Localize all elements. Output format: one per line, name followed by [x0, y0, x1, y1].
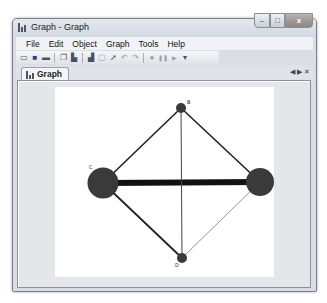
node-label-B: B: [187, 99, 191, 105]
play-icon[interactable]: ▶: [169, 53, 179, 63]
pause-icon[interactable]: ❚❚: [158, 53, 168, 63]
title-bar[interactable]: Graph - Graph – □ x: [13, 19, 316, 37]
pointer-icon[interactable]: ➚: [108, 53, 118, 63]
paste-icon[interactable]: ▙: [69, 53, 79, 63]
edge-C-D[interactable]: [103, 183, 182, 258]
tab-label: Graph: [37, 69, 62, 79]
tab-strip: Graph ◀ ▶ ✕: [16, 65, 313, 81]
maximize-button[interactable]: □: [270, 13, 285, 28]
record-icon[interactable]: ●: [147, 53, 157, 63]
tab-prev-icon[interactable]: ◀: [290, 68, 295, 76]
tab-close-icon[interactable]: ✕: [304, 68, 310, 76]
edge-C-B[interactable]: [103, 108, 181, 183]
tab-graph[interactable]: Graph: [21, 67, 69, 81]
edge-A-D[interactable]: [182, 182, 260, 258]
redo-icon[interactable]: ↷: [130, 53, 140, 63]
toolbar-separator: [143, 53, 144, 63]
menu-graph[interactable]: Graph: [102, 37, 135, 50]
edge-B-A[interactable]: [181, 108, 260, 182]
graph-canvas[interactable]: ABCD: [55, 87, 274, 277]
menu-object[interactable]: Object: [68, 37, 102, 50]
tab-next-icon[interactable]: ▶: [297, 68, 302, 76]
graph-view[interactable]: ABCD: [55, 87, 274, 277]
node-label-D: D: [175, 262, 179, 268]
node-label-C: C: [89, 164, 93, 170]
app-chart-icon: [18, 23, 28, 32]
window-title: Graph - Graph: [31, 22, 89, 32]
close-button[interactable]: x: [285, 13, 313, 28]
undo-icon[interactable]: ↶: [119, 53, 129, 63]
app-window: Graph - Graph – □ x File Edit Object Gra…: [12, 18, 317, 292]
menu-tools[interactable]: Tools: [135, 37, 164, 50]
graph-tab-icon: [26, 71, 35, 79]
print-icon[interactable]: ▬: [41, 53, 51, 63]
menu-bar: File Edit Object Graph Tools Help: [16, 37, 313, 50]
minimize-button[interactable]: –: [254, 13, 270, 28]
save-icon[interactable]: ■: [30, 53, 40, 63]
toolbar: ▭ ■ ▬ ❐ ▙ ▟ ▢ ➚ ↶ ↷ ● ❚❚ ▶ ▾: [16, 51, 219, 64]
node-C[interactable]: [88, 168, 119, 199]
node-A[interactable]: [246, 168, 274, 196]
chart-icon[interactable]: ▟: [86, 53, 96, 63]
toolbar-separator: [54, 53, 55, 63]
menu-edit[interactable]: Edit: [45, 37, 69, 50]
toolbar-separator: [82, 53, 83, 63]
node-B[interactable]: [176, 103, 186, 113]
overflow-dropdown-icon[interactable]: ▾: [180, 53, 190, 63]
menu-help[interactable]: Help: [163, 37, 189, 50]
edge-B-D[interactable]: [181, 108, 182, 258]
document-panel: ABCD: [17, 80, 311, 288]
select-icon[interactable]: ▢: [97, 53, 107, 63]
menu-file[interactable]: File: [22, 37, 45, 50]
copy-icon[interactable]: ❐: [58, 53, 68, 63]
open-folder-icon[interactable]: ▭: [19, 53, 29, 63]
